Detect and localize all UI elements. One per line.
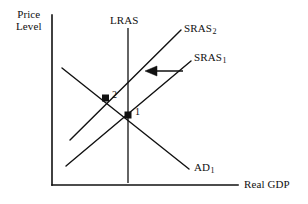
y-axis-label: Price Level: [16, 8, 42, 32]
curve-label-sras1-sub: 1: [222, 56, 227, 65]
shift-arrow-icon: [145, 66, 183, 76]
y-axis-label-line2: Level: [16, 20, 42, 32]
x-axis-label: Real GDP: [244, 178, 290, 190]
curve-label-lras-text: LRAS: [110, 14, 139, 26]
diagram-canvas: Price Level Real GDP LRAS SRAS2 SRAS1 AD…: [0, 0, 308, 204]
curve-label-ad1: AD1: [194, 161, 215, 173]
point-marker-1: [125, 112, 132, 119]
y-axis-label-line1: Price: [17, 8, 40, 20]
curve-label-sras2-sub: 2: [212, 27, 217, 36]
curve-label-ad1-sub: 1: [210, 166, 215, 175]
curve-sras2: [70, 30, 181, 140]
curve-label-sras2: SRAS2: [184, 22, 217, 34]
point-label-1: 1: [135, 106, 140, 118]
point-marker-2: [102, 95, 109, 102]
curve-label-ad1-text: AD: [194, 161, 210, 173]
curve-label-lras: LRAS: [110, 14, 139, 26]
point-label-2: 2: [112, 89, 117, 101]
curve-label-sras2-text: SRAS: [184, 22, 212, 34]
curve-label-sras1-text: SRAS: [194, 51, 222, 63]
curve-label-sras1: SRAS1: [194, 51, 227, 63]
ad-as-diagram: [0, 0, 308, 204]
curve-label-lras-sub: [139, 19, 140, 28]
